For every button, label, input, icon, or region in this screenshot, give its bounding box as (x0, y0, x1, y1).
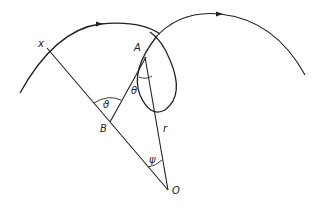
label-theta: θ (131, 85, 137, 96)
arrow-icon (96, 22, 103, 27)
main-arc (20, 23, 160, 93)
angle-arc-theta (139, 76, 152, 78)
second-arc (155, 14, 305, 76)
label-A: A (133, 42, 141, 53)
trajectory-diagram: x A B O r θ ϑ ψ (0, 0, 320, 208)
loop-curve (137, 32, 176, 112)
label-x: x (37, 38, 44, 49)
label-vartheta: ϑ (103, 99, 109, 110)
label-psi: ψ (149, 154, 156, 165)
line-x-to-O (47, 48, 168, 190)
arrow-icon (216, 12, 223, 17)
label-r: r (163, 123, 168, 134)
label-B: B (100, 123, 107, 134)
line-A-to-B (110, 57, 146, 122)
label-O: O (172, 185, 180, 196)
